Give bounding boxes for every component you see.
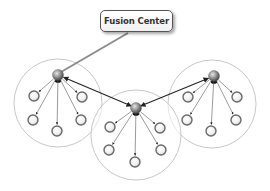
leaf-node-left-2 (28, 115, 38, 125)
hub-node-left (53, 70, 64, 81)
leaf-node-center-3 (156, 145, 166, 155)
fusion-center-link (61, 33, 128, 72)
leaf-node-left-4 (52, 126, 62, 136)
leaf-node-left-0 (29, 91, 39, 101)
leaf-node-left-1 (77, 92, 87, 102)
fusion-center-label: Fusion Center (104, 16, 169, 26)
leaf-node-right-2 (182, 115, 192, 125)
leaf-node-right-1 (232, 92, 242, 102)
leaf-node-center-4 (130, 157, 140, 167)
fusion-center-box: Fusion Center (100, 10, 173, 32)
leaf-node-center-1 (155, 123, 165, 133)
leaf-node-right-3 (231, 115, 241, 125)
hub-node-center (131, 103, 142, 114)
leaf-node-center-0 (105, 122, 115, 132)
hub-node-right (209, 71, 220, 82)
leaf-node-center-2 (104, 145, 114, 155)
leaf-node-right-0 (183, 92, 193, 102)
leaf-node-left-3 (76, 115, 86, 125)
leaf-node-right-4 (206, 126, 216, 136)
